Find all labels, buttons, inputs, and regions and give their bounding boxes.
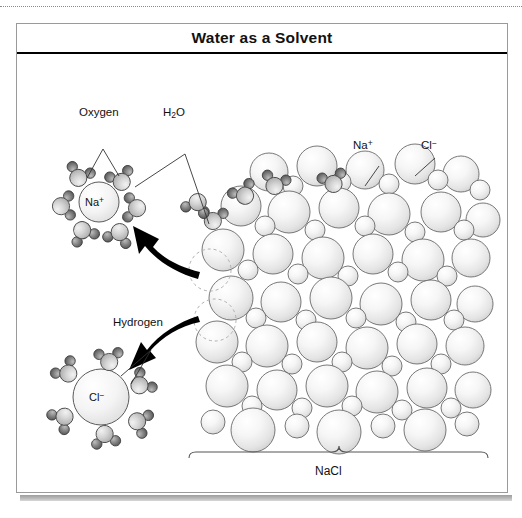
cl-ion-text: Cl xyxy=(89,391,99,403)
lattice-cl-text: Cl xyxy=(421,139,432,151)
dissolution-arrow-upper xyxy=(133,226,200,279)
dissolution-arrows xyxy=(129,226,200,370)
na-ion-charge: + xyxy=(99,195,104,205)
lattice-na-charge: + xyxy=(368,138,373,148)
label-nacl-brace: NaCl xyxy=(315,464,342,478)
figure-title-bar: Water as a Solvent xyxy=(17,24,507,54)
na-ion-text: Na xyxy=(85,196,99,208)
page-title: Water as a Solvent xyxy=(192,29,333,47)
label-sodium-ion-core: Na+ xyxy=(85,195,104,208)
frame-drop-shadow xyxy=(20,495,512,501)
diagram-canvas: Oxygen H2O Hydrogen Na+ Cl− Na+ Cl− NaCl… xyxy=(17,54,507,492)
figure-frame: Water as a Solvent xyxy=(16,23,508,493)
label-hydrogen: Hydrogen xyxy=(113,316,163,328)
label-lattice-sodium: Na+ xyxy=(353,138,373,151)
label-chloride-ion-core: Cl− xyxy=(89,390,104,403)
lattice-na-text: Na xyxy=(353,139,368,151)
label-water-formula: H2O xyxy=(163,106,185,120)
cl-ion-charge: − xyxy=(99,390,104,400)
top-dotted-rule xyxy=(0,6,522,8)
label-lattice-chloride: Cl− xyxy=(421,138,437,151)
label-oxygen: Oxygen xyxy=(79,106,119,118)
lattice-cl-charge: − xyxy=(432,138,437,148)
water-leader xyxy=(135,154,209,224)
diagram-svg xyxy=(17,54,507,492)
water-formula-o: O xyxy=(176,106,185,118)
figure-stage: Water as a Solvent xyxy=(0,0,522,518)
